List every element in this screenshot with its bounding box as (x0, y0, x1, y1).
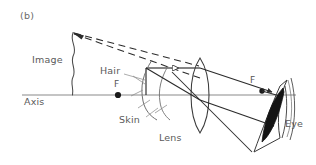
virtual-ray-dashed-group (72, 32, 200, 78)
hair-label: Hair (100, 66, 120, 76)
virtual-image-wavy-line (72, 33, 75, 95)
eye-retina-arc (290, 78, 295, 140)
ray-diagram-canvas (0, 0, 316, 165)
lens-label: Lens (159, 133, 182, 143)
optics-ray-diagram-figure: (b) Image Hair F Axis Skin Lens F Eye (0, 0, 316, 165)
axis-label: Axis (24, 97, 45, 107)
image-label: Image (32, 55, 63, 65)
virtual-ray-lower-dashed (74, 34, 200, 78)
skin-arc-curve-outer (159, 66, 170, 120)
virtual-image-tip-arrowhead (72, 32, 84, 40)
focal-point-left-label: F (114, 80, 119, 89)
real-ray-through-center-out (200, 100, 274, 126)
real-ray-upper-refracted (200, 68, 272, 92)
panel-label: (b) (20, 11, 34, 21)
skin-hatch-3 (138, 100, 150, 108)
focal-point-right-label: F (250, 76, 255, 85)
real-ray-marginal-lower (172, 72, 252, 152)
hair-label-leader (124, 74, 145, 80)
virtual-image-group (72, 33, 75, 95)
focal-point-left-dot (115, 92, 121, 98)
skin-surface-group (131, 60, 170, 120)
skin-label: Skin (119, 115, 140, 125)
eye-label: Eye (285, 119, 303, 129)
skin-arc-curve (142, 60, 157, 120)
virtual-ray-upper-dashed (74, 33, 199, 66)
eye-pupil-filled-shape (262, 88, 284, 142)
